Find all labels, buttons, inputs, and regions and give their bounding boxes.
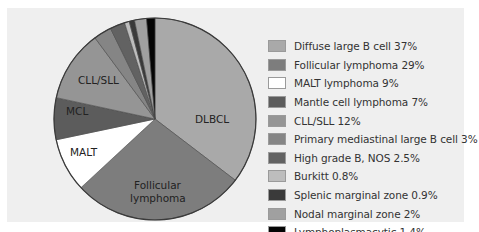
legend-swatch	[268, 77, 286, 89]
legend-item: Burkitt 0.8%	[268, 167, 468, 186]
slice-label-follicular-line2: lymphoma	[130, 192, 186, 204]
slice-label-mcl: MCL	[66, 105, 88, 117]
legend-item: Follicular lymphoma 29%	[268, 56, 468, 75]
legend-swatch	[268, 189, 286, 201]
slice-label-follicular-line1: Follicular	[134, 179, 182, 191]
legend-swatch	[268, 133, 286, 145]
legend-item: Splenic marginal zone 0.9%	[268, 186, 468, 205]
legend-swatch	[268, 152, 286, 164]
chart-legend: Diffuse large B cell 37% Follicular lymp…	[268, 37, 468, 232]
legend-item: Nodal marginal zone 2%	[268, 204, 468, 223]
legend-swatch	[268, 226, 286, 232]
legend-item: MALT lymphoma 9%	[268, 74, 468, 93]
legend-item: Lymphoplasmacytic 1.4%	[268, 223, 468, 232]
legend-swatch	[268, 59, 286, 71]
legend-swatch	[268, 96, 286, 108]
legend-item: Primary mediastinal large B cell 3%	[268, 130, 468, 149]
slice-label-dlbcl: DLBCL	[195, 113, 229, 125]
legend-item: Diffuse large B cell 37%	[268, 37, 468, 56]
legend-item: High grade B, NOS 2.5%	[268, 149, 468, 168]
slice-label-cll: CLL/SLL	[78, 74, 119, 86]
legend-swatch	[268, 208, 286, 220]
slice-label-malt: MALT	[70, 146, 98, 158]
legend-swatch	[268, 115, 286, 127]
legend-swatch	[268, 40, 286, 52]
legend-item: CLL/SLL 12%	[268, 111, 468, 130]
legend-swatch	[268, 170, 286, 182]
legend-item: Mantle cell lymphoma 7%	[268, 93, 468, 112]
